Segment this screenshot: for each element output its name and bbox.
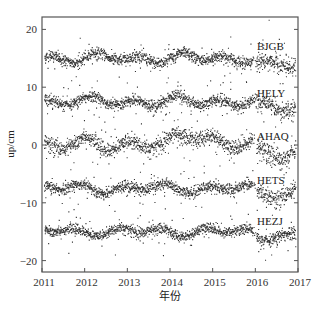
series-label-bjgb: BJGB — [257, 40, 284, 52]
x-tick-label: 2011 — [33, 276, 55, 288]
x-tick-label: 2013 — [118, 276, 141, 288]
x-tick-label: 2014 — [161, 276, 184, 288]
x-axis: 2011201220132014201520162017 — [33, 268, 311, 288]
y-tick-label: −10 — [20, 197, 38, 209]
y-tick-label: 10 — [26, 81, 38, 93]
x-tick-label: 2015 — [204, 276, 227, 288]
series-points-ahaq — [44, 107, 297, 185]
x-tick-label: 2017 — [289, 276, 312, 288]
series-label-hezj: HEZJ — [257, 215, 283, 227]
y-tick-label: −20 — [20, 255, 38, 267]
series-points-bjgb — [44, 20, 296, 85]
x-tick-label: 2016 — [246, 276, 269, 288]
series-label-hely: HELY — [257, 87, 285, 99]
gps-timeseries-chart: 20100−10−20 2011201220132014201520162017… — [0, 0, 319, 314]
x-axis-title: 年份 — [159, 289, 181, 302]
series-label-ahaq: AHAQ — [257, 130, 289, 142]
x-tick-label: 2012 — [76, 276, 98, 288]
series-label-hets: HETS — [257, 174, 285, 186]
y-tick-label: 20 — [26, 23, 38, 35]
y-tick-label: 0 — [32, 139, 38, 151]
y-axis-title: up/cm — [4, 130, 16, 158]
